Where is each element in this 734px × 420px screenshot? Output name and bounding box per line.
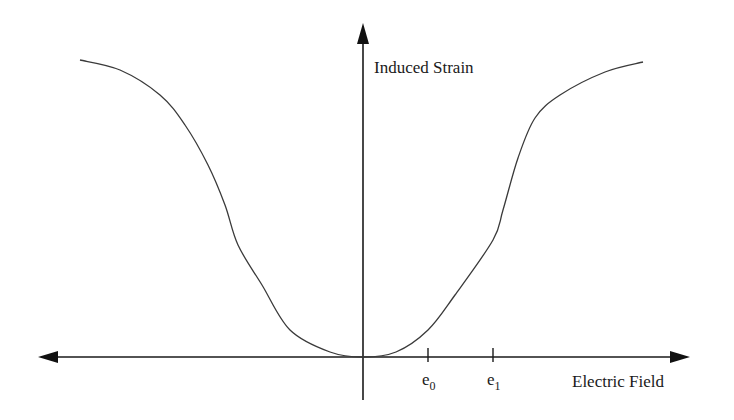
tick-e0-subscript: 0 <box>430 379 436 393</box>
y-axis-arrow-icon <box>357 23 369 44</box>
diagram-svg <box>0 0 734 420</box>
strain-field-diagram: Induced Strain Electric Field e0 e1 <box>0 0 734 420</box>
tick-e1-base: e <box>487 370 495 389</box>
x-axis-right-arrow-icon <box>670 351 690 363</box>
x-axis-left-arrow-icon <box>38 351 58 363</box>
x-axis-label: Electric Field <box>572 372 664 392</box>
y-axis-label: Induced Strain <box>374 58 474 78</box>
tick-label-e0: e0 <box>422 370 436 394</box>
tick-label-e1: e1 <box>487 370 501 394</box>
strain-curve <box>80 60 643 357</box>
tick-e0-base: e <box>422 370 430 389</box>
tick-e1-subscript: 1 <box>495 379 501 393</box>
